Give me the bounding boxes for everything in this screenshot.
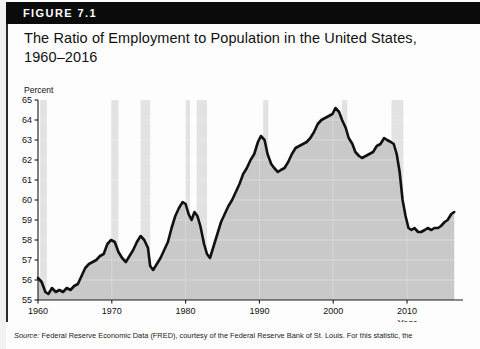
source-label: Source: [14,331,39,340]
y-tick-label-62: 62 [22,155,32,165]
y-tick-label-60: 60 [22,195,32,205]
x-tick-label-2000: 2000 [323,306,343,316]
y-tick-label-59: 59 [22,215,32,225]
x-tick-label-1960: 1960 [28,306,48,316]
x-tick-label-1990: 1990 [249,306,269,316]
y-tick-label-56: 56 [22,275,32,285]
y-tick-label-64: 64 [22,115,32,125]
x-tick-label-1980: 1980 [176,306,196,316]
source-text: Federal Reserve Economic Data (FRED), co… [39,331,412,340]
employment-population-ratio-chart: 5556575859606162636465196019701980199020… [8,24,480,322]
y-tick-label-63: 63 [22,135,32,145]
figure-panel: The Ratio of Employment to Population in… [8,24,480,322]
figure-container: FIGURE 7.1 The Ratio of Employment to Po… [0,0,480,349]
chart-plot-area: 5556575859606162636465196019701980199020… [8,24,480,322]
y-tick-label-57: 57 [22,255,32,265]
figure-number-label: FIGURE 7.1 [23,7,97,19]
x-tick-label-1970: 1970 [102,306,122,316]
y-tick-label-61: 61 [22,175,32,185]
x-axis-title: Year [397,317,416,322]
y-tick-label-65: 65 [22,95,32,105]
source-note: Source: Federal Reserve Economic Data (F… [14,331,474,341]
x-tick-label-2010: 2010 [397,306,417,316]
figure-header-bar: FIGURE 7.1 [6,2,480,24]
y-tick-label-55: 55 [22,295,32,305]
y-tick-label-58: 58 [22,235,32,245]
